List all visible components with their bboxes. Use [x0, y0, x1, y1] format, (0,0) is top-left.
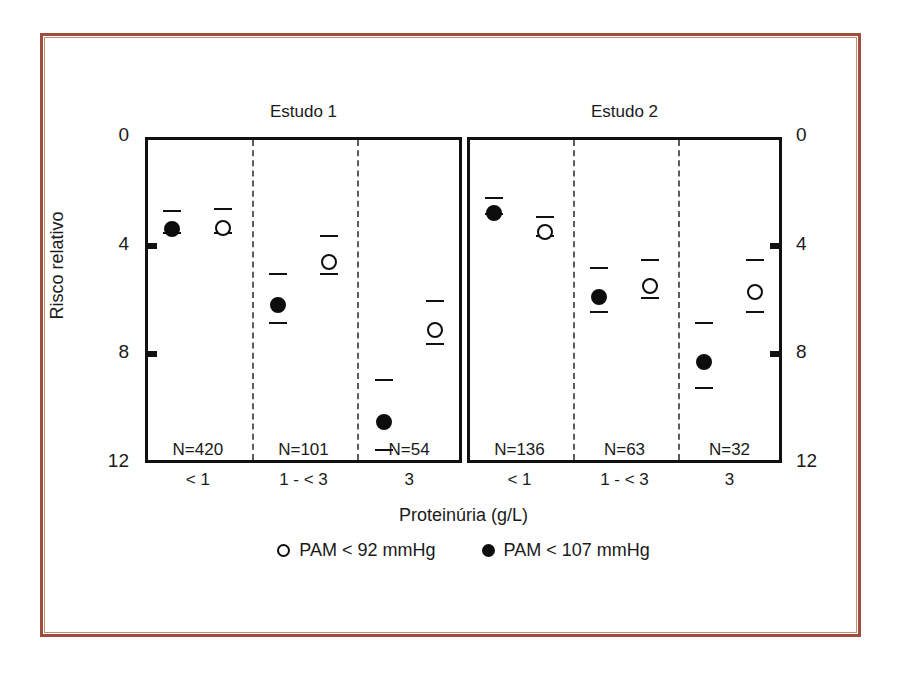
- open-circle-marker: [642, 278, 658, 294]
- open-circle-marker: [537, 224, 553, 240]
- open-circle-marker: [215, 220, 231, 236]
- n-label-0-0: N=420: [138, 440, 258, 460]
- y-tick-label-right-12: 12: [796, 450, 842, 472]
- error-bar-cap-lower: [426, 300, 444, 302]
- plot-panel-left: [145, 137, 462, 463]
- panel-title-left: Estudo 1: [145, 102, 462, 122]
- y-axis-title: Risco relativo: [47, 166, 68, 366]
- open-circle-marker: [427, 322, 443, 338]
- y-tick-label-left-4: 4: [83, 233, 129, 255]
- error-bar-cap-upper: [746, 311, 764, 313]
- error-bar-cap-upper: [641, 297, 659, 299]
- legend: PAM < 92 mmHg PAM < 107 mmHg: [145, 540, 782, 561]
- panel-divider-1-2: [678, 140, 680, 460]
- panel-divider-0-2: [357, 140, 359, 460]
- legend-entry-open: PAM < 92 mmHg: [277, 540, 435, 561]
- x-tick-label-1-1: 1 - < 3: [565, 470, 685, 490]
- error-bar-cap-upper: [269, 322, 287, 324]
- panel-divider-1-1: [573, 140, 575, 460]
- y-tick-label-right-4: 4: [796, 233, 842, 255]
- error-bar-cap-lower: [536, 216, 554, 218]
- figure-root: Estudo 1 Estudo 2 Risco relativo Protein…: [0, 0, 904, 677]
- filled-circle-marker: [376, 414, 392, 430]
- error-bar-cap-upper: [320, 273, 338, 275]
- error-bar-cap-upper: [695, 387, 713, 389]
- error-bar-cap-lower: [214, 208, 232, 210]
- error-bar-cap-upper: [426, 343, 444, 345]
- x-tick-label-0-1: 1 - < 3: [244, 470, 364, 490]
- x-tick-label-1-2: 3: [670, 470, 790, 490]
- panel-divider-0-1: [252, 140, 254, 460]
- y-tick-label-left-12: 12: [83, 450, 129, 472]
- x-tick-label-0-2: 3: [349, 470, 469, 490]
- error-bar-cap-lower: [641, 259, 659, 261]
- legend-label-open: PAM < 92 mmHg: [299, 540, 435, 561]
- x-tick-label-0-0: < 1: [138, 470, 258, 490]
- error-bar-cap-lower: [375, 379, 393, 381]
- error-bar-cap-lower: [320, 235, 338, 237]
- y-tick-mark-left-4: [146, 243, 157, 249]
- open-circle-marker: [747, 284, 763, 300]
- y-tick-label-left-8: 8: [83, 341, 129, 363]
- error-bar-cap-lower: [485, 197, 503, 199]
- error-bar-cap-lower: [163, 210, 181, 212]
- open-circle-icon: [277, 544, 290, 557]
- filled-circle-icon: [482, 544, 495, 557]
- y-tick-mark-right-4: [770, 243, 781, 249]
- x-tick-label-1-0: < 1: [460, 470, 580, 490]
- error-bar-cap-lower: [269, 273, 287, 275]
- open-circle-marker: [321, 254, 337, 270]
- panel-title-right: Estudo 2: [467, 102, 782, 122]
- plot-panel-right: [467, 137, 782, 463]
- x-axis-title: Proteinúria (g/L): [145, 505, 782, 526]
- y-tick-label-right-8: 8: [796, 341, 842, 363]
- y-tick-label-left-0: 0: [83, 124, 129, 146]
- y-tick-mark-right-8: [770, 351, 781, 357]
- y-tick-mark-left-8: [146, 351, 157, 357]
- legend-label-filled: PAM < 107 mmHg: [504, 540, 650, 561]
- error-bar-cap-lower: [695, 322, 713, 324]
- n-label-1-2: N=32: [670, 440, 790, 460]
- legend-entry-filled: PAM < 107 mmHg: [482, 540, 650, 561]
- chart-canvas: Estudo 1 Estudo 2 Risco relativo Protein…: [0, 0, 904, 677]
- error-bar-cap-lower: [590, 267, 608, 269]
- n-label-0-2: N=54: [349, 440, 469, 460]
- n-label-0-1: N=101: [244, 440, 364, 460]
- error-bar-cap-lower: [746, 259, 764, 261]
- error-bar-cap-upper: [590, 311, 608, 313]
- y-tick-label-right-0: 0: [796, 124, 842, 146]
- error-bar-cap-upper: [375, 449, 393, 451]
- n-label-1-1: N=63: [565, 440, 685, 460]
- n-label-1-0: N=136: [460, 440, 580, 460]
